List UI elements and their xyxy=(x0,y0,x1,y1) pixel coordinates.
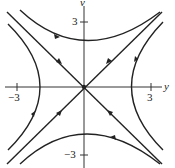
horizontal-axis-label: y xyxy=(164,80,169,92)
phase-portrait xyxy=(0,0,175,168)
tick-label-v-neg3: −3 xyxy=(64,148,76,160)
saddle-point xyxy=(82,85,86,89)
vertical-axis-label: v xyxy=(80,0,85,8)
tick-label-x-3: 3 xyxy=(147,91,153,103)
tick-label-v-3: 3 xyxy=(72,15,78,27)
hyperbola-top xyxy=(20,10,160,41)
hyperbola-bottom xyxy=(20,134,160,164)
tick-label-x-neg3: −3 xyxy=(8,91,20,103)
hyperbola-right xyxy=(132,22,164,150)
